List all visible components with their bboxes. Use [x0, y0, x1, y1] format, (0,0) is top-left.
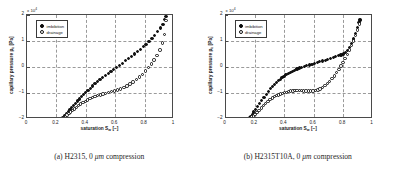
y-tick-label: −2: [14, 115, 24, 120]
chart-b: x 104 imbibitiondrainage saturation Sw […: [225, 8, 373, 129]
data-point-imbibition: [133, 52, 136, 55]
data-point-drainage: [152, 58, 155, 61]
data-point-imbibition: [161, 23, 164, 26]
y-tick-mark: [226, 67, 229, 68]
data-point-imbibition: [262, 96, 265, 99]
y-axis-exponent-a: x 104: [27, 7, 37, 13]
data-point-drainage: [343, 57, 346, 60]
gridline-horizontal: [27, 67, 172, 68]
figure-pair: x 104 imbibitiondrainage saturation Sw […: [0, 0, 397, 179]
data-point-imbibition: [258, 102, 261, 105]
data-point-drainage: [352, 39, 355, 42]
chart-legend: imbibitiondrainage: [36, 20, 68, 38]
gridline-vertical: [284, 15, 285, 117]
filled-circle-icon: [40, 24, 44, 28]
x-tick-label: 0.6: [104, 120, 124, 125]
y-tick-mark: [27, 41, 30, 42]
data-point-imbibition: [150, 37, 153, 40]
data-point-drainage: [161, 41, 164, 44]
open-circle-icon: [40, 30, 44, 34]
data-point-drainage: [163, 33, 166, 36]
y-tick-label: 0: [14, 63, 24, 68]
filled-circle-icon: [239, 24, 243, 28]
y-tick-mark: [27, 15, 30, 16]
data-point-drainage: [341, 61, 344, 64]
x-tick-mark: [145, 117, 146, 119]
x-axis-label-a: saturation Sw [−]: [26, 126, 173, 131]
data-point-drainage: [328, 80, 331, 83]
data-point-drainage: [348, 48, 351, 51]
data-point-imbibition: [121, 62, 124, 65]
data-point-imbibition: [153, 34, 156, 37]
data-point-drainage: [337, 68, 340, 71]
y-tick-mark: [226, 15, 229, 16]
data-point-imbibition: [260, 99, 263, 102]
x-tick-mark: [255, 117, 256, 119]
legend-item-drainage: drainage: [39, 29, 64, 35]
gridline-vertical: [343, 15, 344, 117]
legend-label: imbibition: [245, 24, 263, 29]
y-tick-label: 2: [14, 11, 24, 16]
x-tick-mark: [314, 117, 315, 119]
data-point-drainage: [333, 74, 336, 77]
x-tick-label: 0.6: [303, 120, 323, 125]
chart-a: x 104 imbibitiondrainage saturation Sw […: [26, 8, 174, 129]
y-tick-mark: [226, 41, 229, 42]
x-tick-label: 0.8: [332, 120, 352, 125]
legend-label: drainage: [47, 30, 63, 35]
chart-legend: imbibitiondrainage: [235, 20, 267, 38]
data-point-drainage: [339, 64, 342, 67]
data-point-drainage: [138, 75, 141, 78]
data-point-drainage: [135, 78, 138, 81]
x-tick-label: 0.4: [273, 120, 293, 125]
data-point-imbibition: [136, 50, 139, 53]
x-tick-mark: [343, 117, 344, 119]
data-point-drainage: [147, 66, 150, 69]
data-point-drainage: [358, 22, 361, 25]
x-axis-label-b: saturation Sw [−]: [225, 126, 372, 131]
x-tick-label: 0.2: [244, 120, 264, 125]
data-point-imbibition: [139, 48, 142, 51]
open-circle-icon: [239, 30, 243, 34]
data-point-imbibition: [358, 18, 361, 21]
y-tick-mark: [27, 93, 30, 94]
x-tick-mark: [86, 117, 87, 119]
data-point-imbibition: [159, 26, 162, 29]
data-point-drainage: [144, 69, 147, 72]
data-point-drainage: [158, 48, 161, 51]
gridline-horizontal: [226, 41, 371, 42]
y-tick-label: 2: [213, 11, 223, 16]
y-tick-label: 1: [213, 37, 223, 42]
x-tick-label: 1: [362, 120, 382, 125]
y-tick-label: 1: [14, 37, 24, 42]
data-point-drainage: [155, 54, 158, 57]
data-point-drainage: [350, 44, 353, 47]
legend-item-drainage: drainage: [238, 29, 263, 35]
x-tick-mark: [115, 117, 116, 119]
data-point-imbibition: [147, 40, 150, 43]
data-point-imbibition: [265, 93, 268, 96]
data-point-drainage: [141, 73, 144, 76]
y-tick-mark: [226, 93, 229, 94]
data-point-drainage: [346, 53, 349, 56]
x-tick-mark: [226, 117, 227, 119]
figure-panel-b: x 104 imbibitiondrainage saturation Sw […: [199, 0, 397, 179]
x-tick-mark: [27, 117, 28, 119]
plot-area-a: imbibitiondrainage: [26, 14, 173, 118]
legend-label: drainage: [245, 30, 261, 35]
x-tick-label: 0.4: [75, 120, 95, 125]
data-point-drainage: [164, 19, 167, 22]
data-point-imbibition: [156, 30, 159, 33]
data-point-drainage: [356, 28, 359, 31]
plot-area-b: imbibitiondrainage: [225, 14, 372, 118]
y-tick-label: 0: [213, 63, 223, 68]
data-point-imbibition: [164, 15, 167, 18]
data-point-drainage: [150, 62, 153, 65]
data-point-imbibition: [256, 105, 259, 108]
y-axis-exponent-b: x 104: [226, 7, 236, 13]
x-tick-mark: [284, 117, 285, 119]
legend-label: imbibition: [47, 24, 65, 29]
x-tick-mark: [56, 117, 57, 119]
y-tick-label: −1: [213, 89, 223, 94]
figure-panel-a: x 104 imbibitiondrainage saturation Sw […: [0, 0, 199, 179]
